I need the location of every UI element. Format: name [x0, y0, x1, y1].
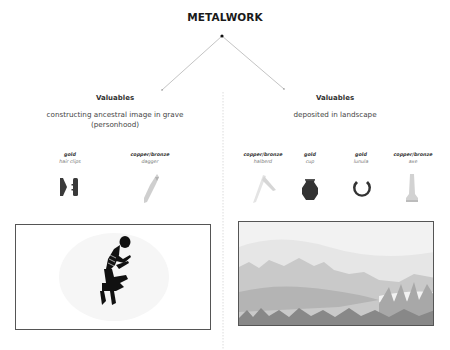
hair-clips-icon: [55, 175, 85, 199]
item-material: gold: [50, 151, 90, 158]
halberd-icon: [240, 172, 280, 206]
dagger-icon: [135, 172, 165, 206]
diagram-title: METALWORK: [0, 11, 450, 23]
landscape-illustration: [239, 222, 434, 326]
right-branch-heading: Valuables: [260, 94, 410, 102]
item-label-axe: copper/bronze axe: [388, 151, 438, 165]
skeleton-illustration: [16, 225, 211, 330]
item-material: copper/bronze: [388, 151, 438, 158]
root-node-dot: [220, 34, 223, 37]
cup-icon: [297, 177, 323, 203]
right-description-line-1: deposited in landscape: [240, 110, 430, 120]
item-label-lunula: gold lunula: [346, 151, 376, 165]
left-description-line-1: constructing ancestral image in grave: [20, 110, 210, 120]
item-name: halberd: [238, 158, 288, 165]
axe-icon: [400, 172, 424, 206]
connector-right: [222, 36, 284, 89]
item-label-hair-clips: gold hair clips: [50, 151, 90, 165]
item-label-cup: gold cup: [295, 151, 325, 165]
wetland-landscape-image: [238, 221, 434, 326]
left-branch-heading: Valuables: [40, 94, 190, 102]
item-label-dagger: copper/bronze dagger: [120, 151, 180, 165]
right-node-dot: [283, 88, 284, 89]
right-branch-description: deposited in landscape: [240, 110, 430, 120]
lunula-icon: [349, 177, 375, 203]
left-node-dot: [161, 89, 162, 90]
item-name: lunula: [346, 158, 376, 165]
item-material: copper/bronze: [238, 151, 288, 158]
item-name: dagger: [120, 158, 180, 165]
left-branch-description: constructing ancestral image in grave (p…: [20, 110, 210, 130]
crouched-skeleton-burial-image: [15, 224, 211, 330]
item-material: gold: [295, 151, 325, 158]
left-description-line-2: (personhood): [20, 120, 210, 130]
item-material: gold: [346, 151, 376, 158]
item-name: hair clips: [50, 158, 90, 165]
item-name: axe: [388, 158, 438, 165]
item-material: copper/bronze: [120, 151, 180, 158]
connector-left: [162, 36, 222, 90]
item-label-halberd: copper/bronze halberd: [238, 151, 288, 165]
item-name: cup: [295, 158, 325, 165]
